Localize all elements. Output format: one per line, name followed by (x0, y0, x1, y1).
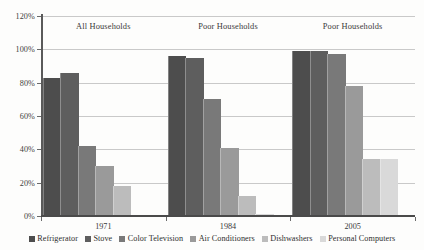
legend-item[interactable]: Refrigerator (29, 234, 78, 243)
x-axis (41, 215, 415, 217)
bar (310, 51, 329, 216)
bar (95, 166, 114, 216)
bar-group (43, 16, 148, 216)
legend-label: Color Television (128, 234, 183, 243)
bar (43, 78, 62, 216)
bar (327, 54, 346, 216)
legend-item[interactable]: Personal Computers (320, 234, 396, 243)
bar (345, 86, 364, 216)
bar (113, 186, 132, 216)
bar-chart: 0%20%40%60%80%100%120% RefrigeratorStove… (0, 0, 424, 250)
bar (362, 159, 381, 216)
y-axis-tick-label: 60% (20, 112, 35, 121)
y-axis-tick-label: 80% (20, 78, 35, 87)
bar (185, 58, 204, 216)
y-axis-tick-label: 40% (20, 145, 35, 154)
bar (292, 51, 311, 216)
bar (238, 196, 257, 216)
legend-label: Refrigerator (37, 234, 78, 243)
legend-label: Air Conditioners (199, 234, 255, 243)
x-axis-tick-mark (166, 217, 167, 221)
y-axis-tick-label: 20% (20, 178, 35, 187)
y-axis-tick-label: 0% (24, 212, 35, 221)
legend-item[interactable]: Air Conditioners (190, 234, 255, 243)
bar (380, 159, 399, 216)
legend-swatch-icon (85, 236, 91, 242)
bar-group (168, 16, 273, 216)
legend-swatch-icon (119, 236, 125, 242)
legend-swatch-icon (262, 236, 268, 242)
bar (220, 148, 239, 216)
plot-area: 0%20%40%60%80%100%120% (41, 16, 415, 216)
legend-label: Stove (93, 234, 112, 243)
bar (203, 99, 222, 216)
legend-item[interactable]: Dishwashers (262, 234, 313, 243)
x-axis-tick-label: 1971 (41, 222, 166, 231)
legend-item[interactable]: Stove (85, 234, 112, 243)
x-axis-tick-label: 1984 (166, 222, 291, 231)
bar (168, 56, 187, 216)
group-annotation: Poor Households (166, 22, 291, 31)
legend-label: Dishwashers (270, 234, 312, 243)
legend-swatch-icon (320, 236, 326, 242)
y-axis (41, 14, 43, 217)
x-axis-tick-mark (41, 217, 42, 221)
group-annotation: Poor Households (290, 22, 415, 31)
bar (78, 146, 97, 216)
bar (60, 73, 79, 216)
legend-label: Personal Computers (328, 234, 395, 243)
y-axis-tick-label: 100% (15, 45, 35, 54)
legend-swatch-icon (29, 236, 35, 242)
legend-item[interactable]: Color Television (119, 234, 183, 243)
x-axis-tick-mark (290, 217, 291, 221)
chart-legend: RefrigeratorStoveColor TelevisionAir Con… (0, 234, 424, 243)
x-axis-tick-mark (415, 217, 416, 221)
bar-group (292, 16, 397, 216)
group-annotation: All Households (41, 22, 166, 31)
y-axis-tick-label: 120% (15, 12, 35, 21)
legend-swatch-icon (190, 236, 196, 242)
x-axis-tick-label: 2005 (290, 222, 415, 231)
